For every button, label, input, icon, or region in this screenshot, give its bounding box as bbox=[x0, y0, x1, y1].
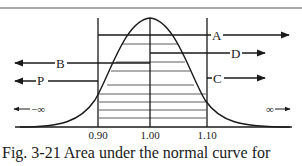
normal-curve-figure: A D C B P −∞ ∞ 0.90 1.00 1.10 bbox=[0, 0, 302, 166]
label-d: D bbox=[231, 46, 240, 61]
pos-inf-label: ∞ bbox=[266, 103, 274, 115]
tick-1-00: 1.00 bbox=[140, 129, 160, 141]
tick-1-10: 1.10 bbox=[197, 129, 217, 141]
figure-caption: Fig. 3-21 Area under the normal curve fo… bbox=[2, 144, 302, 162]
label-p: P bbox=[37, 73, 44, 88]
label-a: A bbox=[212, 28, 222, 43]
tick-0-90: 0.90 bbox=[88, 129, 108, 141]
label-c: C bbox=[213, 71, 222, 86]
label-b: B bbox=[56, 56, 65, 71]
neg-inf-label: −∞ bbox=[31, 103, 45, 115]
shaded-area-hatching bbox=[99, 44, 206, 118]
